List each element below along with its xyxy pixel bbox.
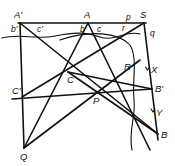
label-c-prime: C' bbox=[12, 85, 22, 96]
label-s: S bbox=[140, 9, 147, 20]
geometry-diagram: A' A S p b' c' b c r q C R P C' X B' Y B… bbox=[0, 0, 175, 166]
label-p-small: p bbox=[125, 12, 131, 22]
label-a-prime: A' bbox=[13, 9, 23, 20]
label-c-small: c bbox=[97, 24, 102, 34]
label-r: R bbox=[124, 61, 131, 72]
line-a-prime-b bbox=[20, 23, 158, 134]
label-a: A bbox=[83, 9, 90, 20]
line-a-q bbox=[24, 23, 88, 148]
label-b-prime-small: b' bbox=[11, 24, 18, 34]
label-y: Y bbox=[156, 107, 163, 118]
label-c-prime-small: c' bbox=[37, 24, 43, 34]
label-p: P bbox=[93, 95, 100, 106]
label-x: X bbox=[150, 64, 158, 75]
label-b-prime: B' bbox=[155, 83, 164, 94]
label-q: Q bbox=[20, 151, 28, 162]
label-b-small: b bbox=[80, 24, 85, 34]
label-q-small: q bbox=[150, 28, 155, 38]
label-r-small: r bbox=[122, 23, 126, 33]
right-side-line bbox=[144, 23, 158, 140]
label-b: B bbox=[161, 129, 168, 140]
label-c: C bbox=[67, 74, 74, 85]
